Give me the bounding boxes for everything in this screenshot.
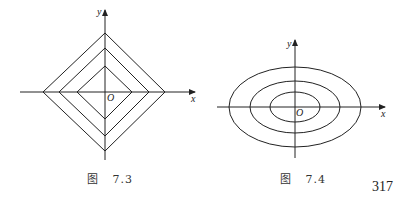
caption-number: 7.3: [113, 173, 134, 186]
y-axis-label: y: [97, 6, 101, 17]
figures-canvas: [0, 0, 401, 198]
x-axis-label: x: [381, 108, 385, 119]
x-axis-label: x: [191, 93, 195, 104]
caption-number: 7.4: [306, 173, 327, 186]
page-number: 317: [372, 179, 393, 195]
origin-label: O: [296, 107, 303, 118]
caption-prefix: 图: [87, 173, 99, 186]
y-axis-label: y: [287, 38, 291, 49]
origin-label: O: [107, 92, 114, 103]
figure-caption: 图 7.3: [87, 170, 133, 186]
figure-caption: 图 7.4: [280, 170, 326, 186]
figure-7-3: [20, 10, 195, 160]
figure-7-4: [217, 40, 385, 158]
caption-prefix: 图: [280, 173, 292, 186]
